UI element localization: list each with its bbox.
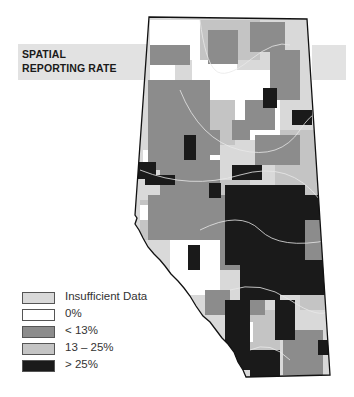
- legend-swatch: [22, 343, 55, 355]
- title-line-1: SPATIAL: [22, 47, 117, 61]
- legend-swatch: [22, 360, 55, 372]
- map-title: SPATIAL REPORTING RATE: [22, 47, 117, 75]
- legend-swatch: [22, 326, 55, 338]
- legend-label: > 25%: [65, 358, 98, 370]
- map-regions: [130, 10, 340, 390]
- legend-label: < 13%: [65, 324, 98, 336]
- title-line-2: REPORTING RATE: [22, 61, 117, 75]
- legend-label: Insufficient Data: [65, 290, 147, 302]
- legend-label: 13 – 25%: [65, 341, 114, 353]
- region-high: [263, 88, 277, 108]
- legend-label: 0%: [65, 307, 82, 319]
- legend-swatch: [22, 309, 55, 321]
- legend-swatch: [22, 292, 55, 304]
